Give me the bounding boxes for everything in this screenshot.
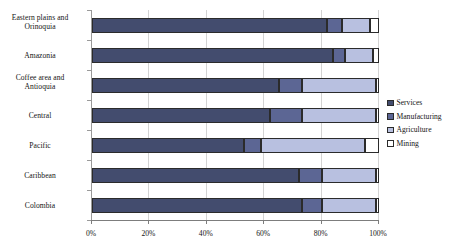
y-axis-category-label: Colombia bbox=[0, 201, 82, 210]
bar-segment-services bbox=[92, 168, 299, 183]
bar-segment-mining bbox=[373, 48, 379, 63]
bar-segment-manufacturing bbox=[244, 138, 261, 153]
x-axis-line bbox=[91, 220, 379, 221]
x-axis-tick-label: 60% bbox=[243, 229, 283, 238]
legend-label: Mining bbox=[397, 139, 419, 148]
legend-swatch-icon bbox=[387, 113, 394, 120]
legend-item-agriculture[interactable]: Agriculture bbox=[387, 123, 471, 137]
y-axis-tick-mark bbox=[87, 160, 91, 161]
legend-label: Services bbox=[397, 98, 423, 107]
bar-row bbox=[92, 78, 379, 93]
x-axis-tick-label: 20% bbox=[128, 229, 168, 238]
bar-segment-mining bbox=[365, 138, 379, 153]
y-axis-tick-mark bbox=[87, 130, 91, 131]
y-axis-tick-mark bbox=[87, 40, 91, 41]
bar-segment-agriculture bbox=[345, 48, 374, 63]
bar-segment-services bbox=[92, 108, 270, 123]
bar-segment-manufacturing bbox=[302, 198, 322, 213]
legend-item-services[interactable]: Services bbox=[387, 96, 471, 110]
y-axis-tick-mark bbox=[87, 220, 91, 221]
y-axis-category-label: Caribbean bbox=[0, 171, 82, 180]
x-axis-tick-label: 80% bbox=[301, 229, 341, 238]
bar-segment-services bbox=[92, 198, 302, 213]
bar-segment-mining bbox=[376, 108, 379, 123]
y-axis-tick-mark bbox=[87, 70, 91, 71]
x-axis-tick-mark bbox=[263, 220, 264, 224]
bar-segment-mining bbox=[376, 78, 379, 93]
bar-segment-mining bbox=[376, 198, 379, 213]
legend-item-manufacturing[interactable]: Manufacturing bbox=[387, 110, 471, 124]
y-axis-tick-mark bbox=[87, 100, 91, 101]
y-axis-category-label: Pacific bbox=[0, 141, 82, 150]
x-axis-tick-mark bbox=[91, 220, 92, 224]
legend-label: Agriculture bbox=[397, 125, 432, 134]
bar-segment-manufacturing bbox=[270, 108, 302, 123]
y-axis-tick-mark bbox=[87, 190, 91, 191]
bar-segment-agriculture bbox=[261, 138, 364, 153]
chart-legend: ServicesManufacturingAgricultureMining bbox=[387, 96, 471, 150]
y-axis-tick-mark bbox=[87, 10, 91, 11]
legend-swatch-icon bbox=[387, 127, 394, 134]
x-axis-tick-label: 100% bbox=[358, 229, 398, 238]
bar-row bbox=[92, 168, 379, 183]
bar-row bbox=[92, 18, 379, 33]
y-axis-category-label: Amazonia bbox=[0, 51, 82, 60]
y-axis-category-label: Coffee area andAntioquia bbox=[0, 73, 82, 92]
y-axis-category-label: Eastern plains andOrinoquia bbox=[0, 13, 82, 32]
bar-segment-agriculture bbox=[302, 78, 377, 93]
y-axis-category-label: Central bbox=[0, 111, 82, 120]
bar-segment-mining bbox=[376, 168, 379, 183]
legend-swatch-icon bbox=[387, 140, 394, 147]
bar-segment-services bbox=[92, 48, 333, 63]
bar-segment-services bbox=[92, 138, 244, 153]
bar-row bbox=[92, 48, 379, 63]
bar-segment-mining bbox=[370, 18, 379, 33]
bar-segment-agriculture bbox=[322, 168, 377, 183]
bar-segment-manufacturing bbox=[279, 78, 302, 93]
bar-segment-manufacturing bbox=[299, 168, 322, 183]
y-axis-category-labels: Eastern plains andOrinoquiaAmazoniaCoffe… bbox=[0, 10, 86, 220]
bar-segment-services bbox=[92, 18, 327, 33]
bar-segment-agriculture bbox=[322, 198, 377, 213]
bar-row bbox=[92, 138, 379, 153]
legend-label: Manufacturing bbox=[397, 112, 442, 121]
plot-area: 0%20%40%60%80%100% bbox=[91, 10, 378, 220]
x-axis-tick-label: 40% bbox=[186, 229, 226, 238]
legend-item-mining[interactable]: Mining bbox=[387, 137, 471, 151]
bar-row bbox=[92, 198, 379, 213]
x-axis-tick-mark bbox=[148, 220, 149, 224]
stacked-bar-chart: Eastern plains andOrinoquiaAmazoniaCoffe… bbox=[0, 0, 472, 241]
bar-segment-agriculture bbox=[302, 108, 377, 123]
x-axis-tick-mark bbox=[321, 220, 322, 224]
bar-segment-services bbox=[92, 78, 279, 93]
bar-segment-manufacturing bbox=[327, 18, 341, 33]
x-axis-tick-mark bbox=[378, 220, 379, 224]
x-axis-tick-mark bbox=[206, 220, 207, 224]
bar-segment-manufacturing bbox=[333, 48, 344, 63]
legend-swatch-icon bbox=[387, 100, 394, 107]
x-axis-tick-label: 0% bbox=[71, 229, 111, 238]
bar-segment-agriculture bbox=[342, 18, 371, 33]
bar-row bbox=[92, 108, 379, 123]
